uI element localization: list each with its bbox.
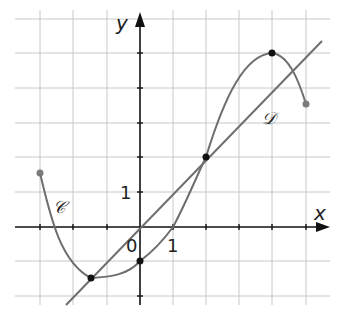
unit-y-label: 1 (120, 182, 131, 203)
grid (15, 10, 330, 305)
x-axis-label: x (313, 201, 326, 225)
origin-label: 0 (126, 235, 137, 256)
point-intersection-2 (203, 154, 210, 161)
axes (15, 22, 322, 305)
y-axis-label: y (115, 11, 129, 35)
point-intersection-1 (88, 275, 95, 282)
line-d (66, 41, 322, 305)
curve-label: 𝒞 (53, 197, 70, 217)
endpoint-right (303, 101, 310, 108)
unit-x-label: 1 (167, 235, 178, 256)
endpoint-left (37, 170, 44, 177)
point-maximum (269, 50, 276, 57)
graph: y x 0 1 1 𝒞 𝒟 (0, 0, 337, 316)
point-y-intercept (137, 258, 144, 265)
line-label: 𝒟 (262, 108, 279, 128)
